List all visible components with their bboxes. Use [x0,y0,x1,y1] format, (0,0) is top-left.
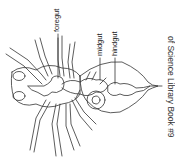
legs [6,36,96,156]
source-caption: of Science Library Book #9 [167,36,176,138]
label-midgut: midgut [96,33,104,56]
foregut-structure [28,76,64,96]
label-foregut: foregut [53,9,61,32]
spider-digestive-diagram [0,0,175,166]
hindgut-structure [108,82,150,95]
label-hindgut: hindgut [111,31,119,56]
midgut-structure [62,72,108,109]
